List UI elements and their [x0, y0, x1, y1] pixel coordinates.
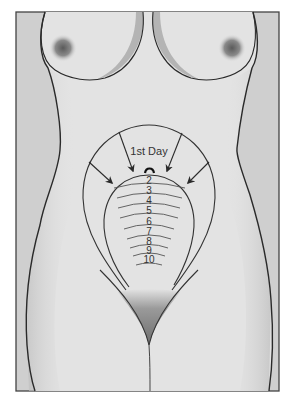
label-1st-day: 1st Day	[130, 145, 168, 157]
label-day-5: 5	[146, 205, 152, 216]
label-day-10: 10	[143, 254, 155, 265]
involution-diagram: 1st Day 2 3 4 5 6 7 8 9 10	[0, 0, 294, 404]
left-nipple	[49, 34, 77, 62]
right-nipple	[218, 34, 246, 62]
diagram-canvas: 1st Day 2 3 4 5 6 7 8 9 10	[0, 0, 294, 404]
